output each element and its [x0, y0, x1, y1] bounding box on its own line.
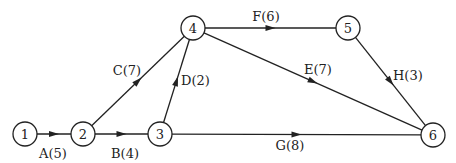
arrowhead-icon — [172, 76, 178, 86]
edge-label-D: D(2) — [181, 73, 210, 88]
arrowhead-icon — [49, 131, 59, 137]
node-1: 1 — [13, 122, 37, 146]
node-label: 5 — [344, 21, 352, 36]
edge-label-F: F(6) — [252, 9, 279, 24]
arrowhead-icon — [117, 131, 127, 137]
node-label: 1 — [21, 127, 29, 142]
node-3: 3 — [148, 122, 172, 146]
edge-C — [92, 36, 185, 125]
node-label: 2 — [79, 127, 87, 142]
arrowhead-icon — [266, 25, 276, 31]
node-label: 3 — [156, 127, 164, 142]
node-label: 4 — [189, 21, 197, 36]
edge-label-E: E(7) — [304, 62, 332, 77]
node-6: 6 — [421, 123, 445, 147]
node-4: 4 — [181, 16, 205, 40]
edge-label-A: A(5) — [38, 146, 67, 161]
edges — [37, 25, 426, 137]
edge-label-B: B(4) — [111, 146, 139, 161]
activity-network-diagram: 123456 A(5)B(4)C(7)D(2)E(7)F(6)G(8)H(3) — [0, 0, 456, 163]
node-5: 5 — [336, 16, 360, 40]
edge-B — [95, 131, 148, 137]
nodes: 123456 — [13, 16, 445, 147]
edge-F — [205, 25, 336, 31]
arrowhead-icon — [307, 77, 317, 84]
edge-G — [172, 131, 421, 137]
edge-label-G: G(8) — [276, 138, 305, 153]
edge-label-H: H(3) — [393, 68, 423, 83]
arrowhead-icon — [291, 131, 301, 137]
node-2: 2 — [71, 122, 95, 146]
edge-labels: A(5)B(4)C(7)D(2)E(7)F(6)G(8)H(3) — [38, 9, 423, 161]
edge-label-C: C(7) — [113, 63, 141, 78]
node-label: 6 — [429, 128, 437, 143]
edge-A — [37, 131, 71, 137]
